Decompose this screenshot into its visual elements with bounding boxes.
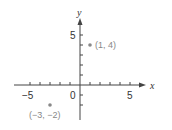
point-label-1-4: (1, 4): [95, 40, 116, 50]
point-label-neg3-neg2: (−3, −2): [29, 110, 61, 120]
x-tick-label-5: 5: [127, 90, 133, 101]
x-tick-label-neg5: −5: [22, 90, 34, 101]
x-tick-label-0: 0: [70, 90, 76, 101]
point-neg3-neg2: [48, 103, 52, 107]
x-axis-arrow-icon: [139, 83, 146, 88]
y-tick-label-5: 5: [70, 30, 76, 41]
x-axis-label: x: [149, 80, 155, 91]
point-1-4: [88, 43, 92, 47]
y-axis-arrow-icon: [78, 18, 83, 25]
coordinate-plane: y x −5 0 5 5 (1, 4) (−3, −2): [0, 0, 172, 130]
y-axis-label: y: [76, 7, 82, 18]
